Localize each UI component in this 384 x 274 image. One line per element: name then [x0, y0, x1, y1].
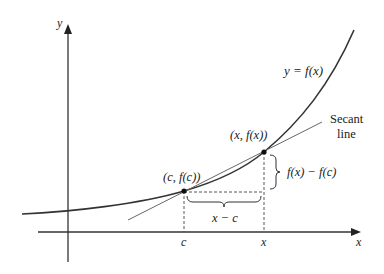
point-c-label: (c, f(c)) [163, 170, 200, 184]
function-curve [22, 30, 354, 214]
vertical-brace [270, 155, 280, 189]
horizontal-brace [187, 196, 261, 207]
point-x-marker [261, 149, 266, 154]
curve-label: y = f(x) [282, 63, 323, 78]
x-axis-label: x [355, 235, 362, 249]
tick-label-c: c [181, 235, 187, 249]
point-x-label: (x, f(x)) [230, 128, 267, 142]
secant-label-2: line [337, 127, 356, 141]
vertical-brace-label: f(x) − f(c) [287, 165, 336, 179]
y-axis-label: y [56, 16, 63, 30]
horizontal-brace-label: x − c [211, 211, 238, 225]
point-c-marker [181, 188, 186, 193]
secant-diagram: y x y = f(x) Secant line (c, f(c)) (x, f… [0, 0, 384, 274]
tick-label-x: x [260, 235, 267, 249]
secant-label-1: Secant [330, 112, 364, 126]
